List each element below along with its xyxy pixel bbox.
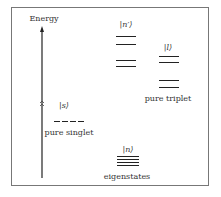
- eigen-level: [117, 162, 139, 163]
- triplet-level: [159, 62, 179, 63]
- nprime-level: [116, 44, 136, 45]
- singlet-level-dash: [78, 121, 84, 122]
- eigen-caption: eigenstates: [104, 172, 150, 181]
- eigen-level: [117, 159, 139, 160]
- triplet-caption: pure triplet: [145, 94, 192, 103]
- ket-n: |n⟩: [123, 145, 134, 154]
- nprime-level: [116, 60, 136, 61]
- singlet-level-dash: [54, 121, 60, 122]
- ket-s: |s⟩: [59, 101, 69, 110]
- triplet-level: [159, 56, 179, 57]
- energy-label: Energy: [29, 14, 58, 23]
- eigen-level: [117, 156, 139, 157]
- ket-nprime: |n′⟩: [120, 20, 133, 29]
- singlet-level-dash: [70, 121, 76, 122]
- triplet-level: [159, 87, 179, 88]
- nprime-level: [116, 66, 136, 67]
- triplet-level: [159, 80, 179, 81]
- arrow-head-icon: [40, 26, 44, 32]
- eigen-level: [117, 165, 139, 166]
- ket-l: |l⟩: [164, 43, 172, 52]
- singlet-caption: pure singlet: [45, 128, 94, 137]
- nprime-level: [116, 36, 136, 37]
- singlet-level-dash: [62, 121, 68, 122]
